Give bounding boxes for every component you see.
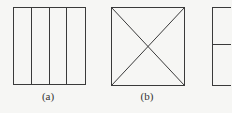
- panel-a-label: (a): [42, 90, 54, 102]
- figure-canvas: (a) (b): [0, 0, 231, 113]
- figure-drawing: [0, 0, 231, 113]
- panel-b-square: [112, 8, 185, 86]
- panel-c-square: [213, 8, 232, 86]
- panel-b-label: (b): [141, 90, 154, 102]
- panel-a-square: [14, 8, 86, 85]
